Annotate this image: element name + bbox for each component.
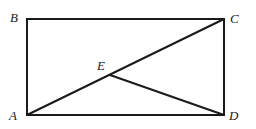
label-c: C: [230, 11, 239, 26]
label-d: D: [228, 108, 239, 123]
label-a: A: [8, 108, 17, 123]
label-b: B: [10, 10, 18, 25]
label-e: E: [96, 58, 105, 73]
segment-ed: [110, 75, 224, 115]
segment-ac: [27, 19, 224, 115]
geometry-diagram: B C A D E: [0, 0, 256, 129]
